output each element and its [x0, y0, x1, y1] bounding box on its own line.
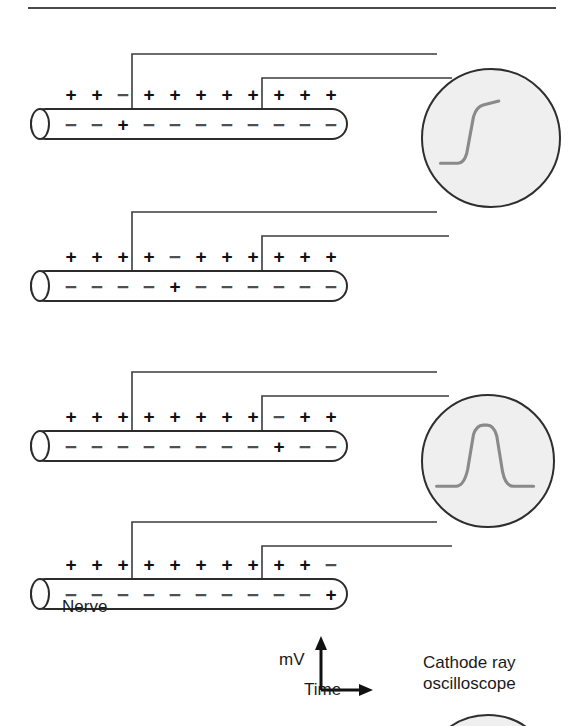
charge-symbol: +: [266, 437, 292, 456]
nerve-assembly-1: ++−++++++++ −−+−−−−−−−−: [28, 82, 348, 144]
charge-symbol: +: [188, 85, 214, 104]
charge-symbol: −: [110, 277, 136, 296]
charge-symbol: +: [292, 555, 318, 574]
charge-symbol: +: [318, 407, 344, 426]
charge-symbol: −: [318, 555, 344, 574]
oscilloscope-screen-3: [421, 714, 555, 726]
charge-symbol: +: [110, 115, 136, 134]
mv-axis-label: mV: [279, 650, 305, 670]
charge-symbol: −: [188, 437, 214, 456]
nerve-action-potential-figure: ++−++++++++ −−+−−−−−−−− ++++−++++++ −−−−…: [0, 0, 577, 726]
charge-symbol: −: [266, 115, 292, 134]
oscilloscope-label-line2: oscilloscope: [423, 673, 573, 694]
axis-legend: mV Time: [279, 632, 391, 704]
charge-symbol: −: [84, 277, 110, 296]
charge-symbol: +: [58, 247, 84, 266]
nerve-assembly-2: ++++−++++++ −−−−+−−−−−−: [28, 244, 348, 306]
charge-symbol: +: [240, 407, 266, 426]
charge-symbol: +: [266, 247, 292, 266]
charge-symbol: −: [292, 277, 318, 296]
outer-charge-row-4: ++++++++++−: [58, 552, 344, 576]
charge-symbol: +: [84, 85, 110, 104]
oscilloscope-label-line1: Cathode ray: [423, 652, 573, 673]
inner-charge-row-2: −−−−+−−−−−−: [58, 274, 344, 298]
charge-symbol: +: [292, 85, 318, 104]
charge-symbol: +: [162, 555, 188, 574]
charge-symbol: +: [214, 85, 240, 104]
charge-symbol: −: [110, 585, 136, 604]
oscilloscope-screen-1: [421, 68, 561, 208]
charge-symbol: +: [266, 85, 292, 104]
charge-symbol: −: [240, 115, 266, 134]
charge-symbol: −: [58, 437, 84, 456]
x-axis-arrowhead: [359, 684, 373, 696]
inner-charge-row-3: −−−−−−−−+−−: [58, 434, 344, 458]
charge-symbol: −: [240, 277, 266, 296]
charge-symbol: +: [318, 247, 344, 266]
charge-symbol: +: [162, 407, 188, 426]
time-axis-label: Time: [304, 680, 341, 700]
nerve-end-cap-2: [30, 270, 50, 302]
charge-symbol: +: [84, 555, 110, 574]
charge-symbol: +: [318, 585, 344, 604]
charge-symbol: +: [136, 247, 162, 266]
charge-symbol: −: [292, 437, 318, 456]
charge-symbol: +: [58, 85, 84, 104]
panel-stage-2: ++++−++++++ −−−−+−−−−−−: [0, 192, 577, 352]
charge-symbol: +: [240, 247, 266, 266]
nerve-end-cap-1: [30, 108, 50, 140]
charge-symbol: −: [214, 115, 240, 134]
charge-symbol: −: [162, 585, 188, 604]
charge-symbol: −: [136, 115, 162, 134]
charge-symbol: −: [110, 85, 136, 104]
charge-symbol: +: [188, 407, 214, 426]
outer-charge-row-2: ++++−++++++: [58, 244, 344, 268]
trace-stage-1: [440, 101, 498, 163]
charge-symbol: +: [136, 85, 162, 104]
top-divider-rule: [28, 7, 556, 9]
charge-symbol: +: [162, 85, 188, 104]
charge-symbol: −: [292, 115, 318, 134]
charge-symbol: +: [84, 407, 110, 426]
charge-symbol: −: [84, 437, 110, 456]
charge-symbol: +: [240, 555, 266, 574]
oscilloscope-label: Cathode ray oscilloscope: [423, 652, 573, 694]
charge-symbol: +: [292, 247, 318, 266]
charge-symbol: −: [110, 437, 136, 456]
charge-symbol: −: [162, 437, 188, 456]
charge-symbol: +: [318, 85, 344, 104]
charge-symbol: +: [110, 407, 136, 426]
charge-symbol: −: [318, 437, 344, 456]
charge-symbol: −: [240, 437, 266, 456]
charge-symbol: +: [110, 247, 136, 266]
charge-symbol: −: [58, 115, 84, 134]
charge-symbol: −: [188, 585, 214, 604]
charge-symbol: +: [214, 247, 240, 266]
charge-symbol: +: [214, 407, 240, 426]
charge-symbol: −: [136, 277, 162, 296]
charge-symbol: −: [136, 585, 162, 604]
charge-symbol: −: [266, 585, 292, 604]
outer-charge-row-3: ++++++++−++: [58, 404, 344, 428]
charge-symbol: −: [318, 115, 344, 134]
charge-symbol: −: [136, 437, 162, 456]
charge-symbol: +: [136, 407, 162, 426]
charge-symbol: −: [188, 115, 214, 134]
charge-symbol: −: [214, 437, 240, 456]
charge-symbol: −: [58, 277, 84, 296]
charge-symbol: +: [84, 247, 110, 266]
charge-symbol: +: [240, 85, 266, 104]
panel-stage-1: ++−++++++++ −−+−−−−−−−−: [0, 30, 577, 190]
inner-charge-row-1: −−+−−−−−−−−: [58, 112, 344, 136]
charge-symbol: −: [162, 247, 188, 266]
charge-symbol: −: [318, 277, 344, 296]
outer-charge-row-1: ++−++++++++: [58, 82, 344, 106]
charge-symbol: −: [214, 585, 240, 604]
nerve-end-cap-3: [30, 430, 50, 462]
charge-symbol: +: [292, 407, 318, 426]
charge-symbol: −: [214, 277, 240, 296]
charge-symbol: −: [84, 115, 110, 134]
nerve-assembly-3: ++++++++−++ −−−−−−−−+−−: [28, 404, 348, 466]
nerve-end-cap-4: [30, 578, 50, 610]
charge-symbol: +: [136, 555, 162, 574]
